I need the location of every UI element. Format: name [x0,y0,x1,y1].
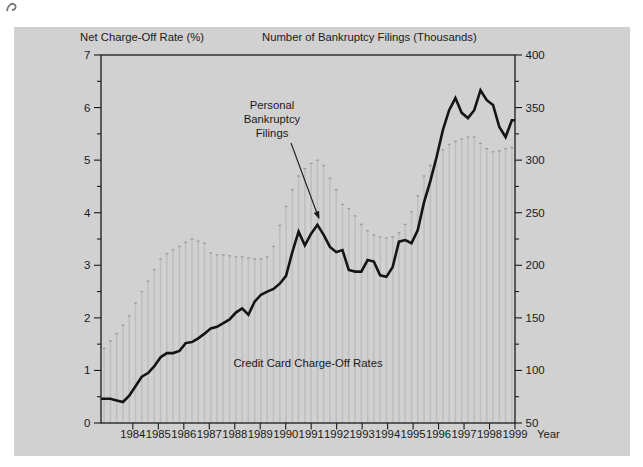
bar-cap [247,257,250,258]
bar-cap [241,256,244,257]
figure-panel [14,27,630,456]
bar-cap [191,238,194,239]
bar [323,165,325,423]
bar [185,242,187,423]
bar [404,224,406,423]
bar [216,255,218,423]
bar [492,152,494,423]
bar [266,257,268,423]
bar [436,157,438,423]
left-tick-label: 2 [84,312,90,324]
year-tick-label: 1988 [222,428,247,440]
bar-cap [360,224,363,225]
left-tick-label: 4 [84,207,91,219]
bar-cap [429,165,432,166]
bar-cap [404,224,407,225]
bar-cap [303,168,306,169]
bar-cap [485,148,488,149]
year-tick-label: 1997 [451,428,476,440]
bar-cap [416,195,419,196]
bar [235,257,237,423]
bar-cap [366,230,369,231]
bar [241,257,243,423]
bar-cap [372,234,375,235]
right-tick-label: 100 [526,364,545,376]
bar-cap [184,242,187,243]
bar-cap [172,249,175,250]
bar [467,137,469,423]
bar-cap [473,136,476,137]
x-axis-unit-label: Year [537,428,560,440]
bar-cap [310,163,313,164]
bar [304,169,306,423]
bar-cap [492,151,495,152]
bar-cap [460,139,463,140]
bar-cap [147,280,150,281]
bar-cap [165,253,168,254]
year-tick-label: 1991 [299,428,324,440]
bar-cap [454,141,457,142]
bar-cap [203,243,206,244]
bar-cap [103,348,106,349]
bar-cap [498,150,501,151]
bar [260,259,262,423]
left-axis-title: Net Charge-Off Rate (%) [80,31,204,43]
bar [361,224,363,423]
bar [442,150,444,423]
bar-cap [216,254,219,255]
left-tick-label: 7 [84,49,90,61]
bar [342,204,344,423]
bar-cap [115,333,118,334]
right-tick-label: 200 [526,259,545,271]
right-axis-title: Number of Bankruptcy Filings (Thousands) [262,31,477,43]
bar [505,149,507,423]
bar-cap [391,236,394,237]
bar [285,206,287,423]
bar-cap [441,149,444,150]
left-tick-label: 5 [84,154,90,166]
year-tick-label: 1984 [120,428,145,440]
bar-cap [134,303,137,304]
bar [348,209,350,423]
bar-cap [410,211,413,212]
bar [379,237,381,423]
bar [179,246,181,423]
bar-cap [159,258,162,259]
bar [197,241,199,423]
bar [110,341,112,423]
bar [386,238,388,423]
year-tick-label: 1998 [477,428,502,440]
bar [329,178,331,423]
bar-cap [228,255,231,256]
bar-cap [178,246,181,247]
bar-cap [253,258,256,259]
year-tick-label: 1994 [375,428,400,440]
year-tick-label: 1999 [502,428,527,440]
bar [292,190,294,423]
bar [511,148,513,423]
bar-cap [278,225,281,226]
bar [191,239,193,423]
chargeoff-line-label: Credit Card Charge-Off Rates [233,357,383,369]
bar-cap [197,241,200,242]
bankruptcy-annotation-line3: Filings [256,127,289,139]
bankruptcy-annotation-line1: Personal [250,99,295,111]
right-tick-label: 150 [526,312,545,324]
bar-cap [448,144,451,145]
bar-cap [423,175,426,176]
right-tick-label: 250 [526,207,545,219]
bar-cap [122,325,125,326]
year-tick-label: 1989 [248,428,273,440]
bar [229,256,231,423]
year-tick-label: 1992 [324,428,349,440]
left-tick-label: 6 [84,102,90,114]
bar-cap [140,291,143,292]
bar [398,233,400,423]
bar-cap [153,269,156,270]
bar-cap [354,215,357,216]
year-tick-label: 1996 [426,428,451,440]
bar-cap [260,258,263,259]
right-tick-label: 400 [526,49,545,61]
right-tick-label: 350 [526,102,545,114]
year-tick-label: 1986 [171,428,196,440]
